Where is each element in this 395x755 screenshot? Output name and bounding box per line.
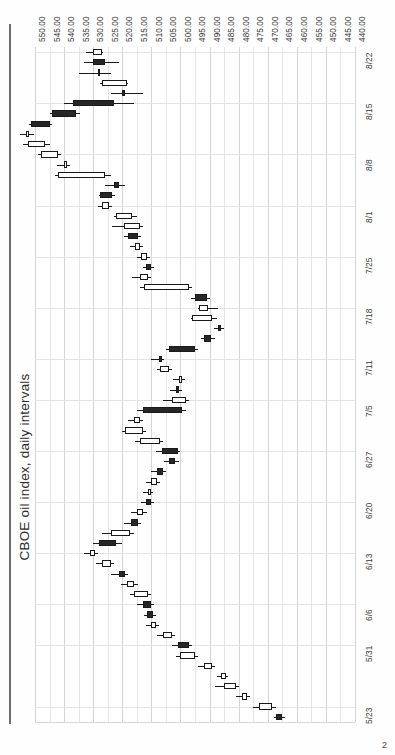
candle-body xyxy=(119,571,125,577)
price-gridline xyxy=(122,47,123,722)
date-gridline xyxy=(35,451,355,452)
candle-body xyxy=(144,284,189,290)
price-tick-label: 530.00 xyxy=(96,0,107,42)
candle-body xyxy=(140,438,160,444)
candle-body xyxy=(146,264,152,270)
candle-body xyxy=(122,90,125,96)
candle-body xyxy=(137,509,143,515)
candle-body xyxy=(102,80,127,86)
price-gridline xyxy=(93,47,94,722)
price-gridline xyxy=(195,47,196,722)
price-gridline xyxy=(297,47,298,722)
candle-body xyxy=(52,110,75,116)
candle-body xyxy=(221,673,225,679)
date-tick-label: 8/1 xyxy=(364,189,375,223)
candle-body xyxy=(93,49,102,55)
date-gridline xyxy=(35,52,355,53)
price-gridline xyxy=(64,47,65,722)
price-tick-label: 525.00 xyxy=(111,0,122,42)
date-tick-label: 5/23 xyxy=(364,690,375,724)
price-gridline xyxy=(35,47,36,722)
price-gridline xyxy=(340,47,341,722)
price-tick-label: 445.00 xyxy=(344,0,355,42)
candle-body xyxy=(124,223,140,229)
price-gridline xyxy=(239,47,240,722)
page-number: 2 xyxy=(382,740,387,750)
price-gridline xyxy=(268,47,269,722)
date-tick-label: 7/25 xyxy=(364,240,375,274)
candle-body xyxy=(157,468,163,474)
candle-body xyxy=(134,591,149,597)
candle-body xyxy=(26,131,29,137)
candle-body xyxy=(90,550,94,556)
date-tick-label: 6/13 xyxy=(364,536,375,570)
plot-border-bottom xyxy=(35,722,355,723)
candle-body xyxy=(127,581,134,587)
date-tick-label: 6/20 xyxy=(364,485,375,519)
candle-body xyxy=(162,448,178,454)
price-gridline xyxy=(50,47,51,722)
candle-body xyxy=(143,601,152,607)
candle-body xyxy=(151,478,157,484)
price-gridline xyxy=(79,47,80,722)
date-gridline xyxy=(35,257,355,258)
candle-body xyxy=(102,202,109,208)
price-gridline xyxy=(210,47,211,722)
candle-body xyxy=(259,703,272,709)
candle-body xyxy=(148,489,151,495)
price-gridline xyxy=(137,47,138,722)
price-tick-label: 545.00 xyxy=(53,0,64,42)
price-tick-label: 505.00 xyxy=(169,0,180,42)
date-gridline xyxy=(35,308,355,309)
candle-body xyxy=(195,294,207,300)
candle-body xyxy=(204,663,213,669)
date-tick-label: 5/31 xyxy=(364,628,375,662)
candle-body xyxy=(159,356,162,362)
candle-body xyxy=(41,151,58,157)
candle-body xyxy=(98,69,101,75)
candle-body xyxy=(160,366,169,372)
price-tick-label: 460.00 xyxy=(300,0,311,42)
date-gridline xyxy=(35,400,355,401)
candle-body xyxy=(224,683,236,689)
candle-body xyxy=(276,714,282,720)
date-tick-label: 8/8 xyxy=(364,137,375,171)
candle-body xyxy=(151,622,155,628)
candle-body xyxy=(141,253,147,259)
price-tick-label: 550.00 xyxy=(38,0,49,42)
page-canvas: CBOE oil index, daily intervals 550.0054… xyxy=(0,0,395,755)
candle-body xyxy=(179,376,182,382)
price-tick-label: 535.00 xyxy=(82,0,93,42)
candle-body xyxy=(58,172,105,178)
price-gridline xyxy=(311,47,312,722)
candle-body xyxy=(143,407,182,413)
price-gridline xyxy=(282,47,283,722)
price-tick-label: 450.00 xyxy=(329,0,340,42)
price-tick-label: 475.00 xyxy=(256,0,267,42)
price-tick-label: 495.00 xyxy=(198,0,209,42)
price-tick-label: 465.00 xyxy=(285,0,296,42)
candle-body xyxy=(218,325,221,331)
candle-body xyxy=(99,540,116,546)
date-gridline xyxy=(35,645,355,646)
candle-body xyxy=(100,192,112,198)
candle-body xyxy=(135,243,139,249)
date-gridline xyxy=(35,604,355,605)
price-gridline xyxy=(108,47,109,722)
candle-body xyxy=(128,233,138,239)
candle-body xyxy=(93,59,105,65)
date-tick-label: 6/6 xyxy=(364,587,375,621)
date-tick-label: 6/27 xyxy=(364,434,375,468)
candle-body xyxy=(131,519,138,525)
date-gridline xyxy=(35,553,355,554)
candle-body xyxy=(180,652,195,658)
candle-body xyxy=(199,305,208,311)
price-tick-label: 515.00 xyxy=(140,0,151,42)
date-gridline xyxy=(35,707,355,708)
price-tick-label: 520.00 xyxy=(125,0,136,42)
price-gridline xyxy=(253,47,254,722)
price-tick-label: 485.00 xyxy=(227,0,238,42)
date-tick-label: 7/18 xyxy=(364,291,375,325)
date-tick-label: 7/11 xyxy=(364,342,375,376)
candle-body xyxy=(64,161,67,167)
